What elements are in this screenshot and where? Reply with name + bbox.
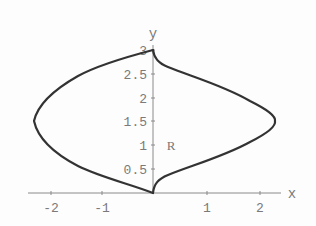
region-label-r: R	[167, 138, 176, 153]
right-curve	[153, 50, 275, 193]
y-axis-label: y	[149, 26, 157, 42]
y-tick-label: 1	[139, 139, 147, 154]
x-tick-label: -1	[94, 201, 110, 216]
x-tick-label: 2	[256, 201, 264, 216]
y-tick-label: 2.5	[124, 68, 147, 83]
chart-plot: -2 -1 1 2 0.5 1 1.5 2 2.5 3 x y R	[0, 0, 316, 226]
x-tick-label: 1	[203, 201, 211, 216]
y-tick-label: 2	[139, 92, 147, 107]
y-tick-label: 1.5	[124, 115, 147, 130]
x-axis-label: x	[288, 186, 296, 202]
y-tick-label: 0.5	[124, 163, 147, 178]
x-tick-label: -2	[43, 201, 59, 216]
